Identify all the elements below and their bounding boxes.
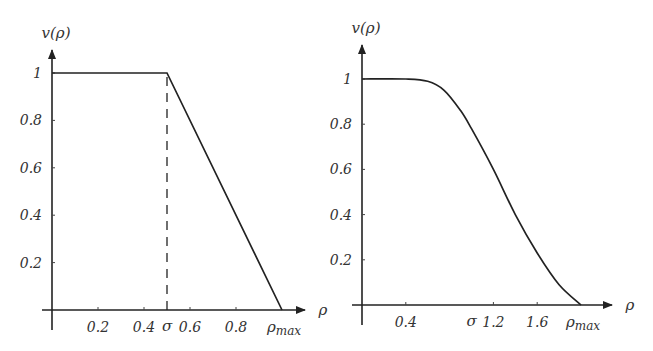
x-axis-label: ρ (625, 296, 635, 314)
sigma-label: σ (162, 317, 173, 335)
x-tick-label: 0.4 (133, 319, 155, 335)
y-tick-label: 1 (33, 65, 42, 81)
y-tick-label: 0.8 (330, 116, 352, 132)
y-tick-label: 1 (343, 71, 352, 87)
y-axis-label: v(ρ) (42, 24, 71, 42)
y-tick-label: 0.4 (330, 207, 352, 223)
x-tick-label: 1.6 (526, 314, 548, 330)
x-tick-label: 0.2 (87, 319, 109, 335)
y-tick-label: 0.4 (20, 207, 42, 223)
y-tick-label: 0.6 (20, 160, 42, 176)
y-tick-label: 0.2 (20, 255, 42, 271)
right-chart: v(ρ)ρ0.20.40.60.810.41.21.6σρmax (330, 19, 635, 333)
velocity-curve (362, 79, 581, 305)
x-axis-label: ρ (318, 301, 328, 319)
x-tick-label: 0.8 (225, 319, 247, 335)
figure: v(ρ)ρ0.20.40.60.810.20.40.60.8σρmax v(ρ)… (0, 0, 653, 351)
x-tick-label: 0.6 (179, 319, 201, 335)
sigma-label: σ (466, 312, 477, 330)
y-tick-label: 0.8 (20, 112, 42, 128)
x-tick-label: 1.2 (482, 314, 504, 330)
y-tick-label: 0.2 (330, 252, 352, 268)
rho-max-label: ρmax (266, 318, 301, 338)
x-tick-label: 0.4 (395, 314, 417, 330)
rho-max-label: ρmax (565, 313, 600, 333)
left-chart: v(ρ)ρ0.20.40.60.810.20.40.60.8σρmax (20, 24, 328, 338)
y-axis-label: v(ρ) (352, 19, 381, 37)
y-tick-label: 0.6 (330, 161, 352, 177)
